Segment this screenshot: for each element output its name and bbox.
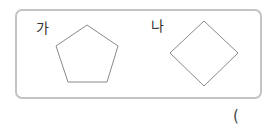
pentagon-shape [56,25,118,82]
answer-paren: ( [233,109,239,124]
diamond-shape [170,21,238,86]
